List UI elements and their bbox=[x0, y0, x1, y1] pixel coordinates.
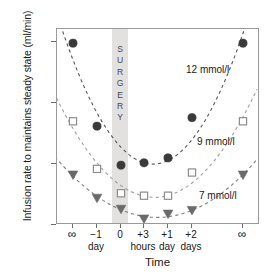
x-tick-mark-plus1day bbox=[167, 224, 168, 228]
x-tick-primary: +2 bbox=[185, 229, 196, 240]
x-tick-mark-minus1day bbox=[96, 224, 97, 228]
data-point bbox=[140, 192, 147, 199]
series-trendline bbox=[56, 152, 257, 218]
data-point bbox=[69, 39, 77, 47]
x-tick-unit: day bbox=[76, 241, 116, 253]
data-point bbox=[69, 118, 76, 125]
x-tick-primary: 0 bbox=[117, 229, 123, 240]
data-point bbox=[139, 215, 149, 223]
data-point bbox=[117, 161, 125, 169]
data-point bbox=[239, 39, 247, 47]
data-point bbox=[93, 122, 101, 130]
x-tick-label-inf-right: ∞ bbox=[222, 229, 262, 241]
data-point bbox=[68, 171, 78, 179]
data-point bbox=[187, 206, 197, 214]
data-point bbox=[164, 192, 171, 199]
data-point bbox=[92, 194, 102, 202]
series-label-9: 9 mmol/l bbox=[197, 136, 235, 147]
series-7-mmol-l bbox=[56, 152, 257, 224]
data-point bbox=[238, 171, 248, 179]
data-point bbox=[117, 190, 124, 197]
x-tick-primary: ∞ bbox=[238, 227, 247, 241]
figure-chart: Infusion rate to maintains steady state … bbox=[0, 0, 275, 278]
data-point bbox=[188, 169, 195, 176]
data-point bbox=[140, 159, 148, 167]
x-tick-primary: ∞ bbox=[68, 227, 77, 241]
data-point bbox=[188, 114, 196, 122]
x-tick-mark-zero bbox=[120, 224, 121, 228]
y-axis-title: Infusion rate to maintains steady state … bbox=[21, 10, 33, 222]
data-point bbox=[164, 154, 172, 162]
x-axis-title: Time bbox=[56, 256, 259, 268]
series-label-12: 12 mmol/l bbox=[186, 64, 229, 75]
x-tick-label-plus2days: +2 days bbox=[171, 229, 211, 252]
series-label-7: 7 mmol/l bbox=[199, 190, 237, 201]
x-tick-mark-plus2days bbox=[191, 224, 192, 228]
data-point bbox=[93, 165, 100, 172]
x-tick-unit: days bbox=[171, 241, 211, 253]
y-tick-mark-0 bbox=[51, 224, 56, 225]
data-point bbox=[116, 205, 126, 213]
data-point bbox=[239, 118, 246, 125]
x-tick-mark-plus3hours bbox=[143, 224, 144, 228]
